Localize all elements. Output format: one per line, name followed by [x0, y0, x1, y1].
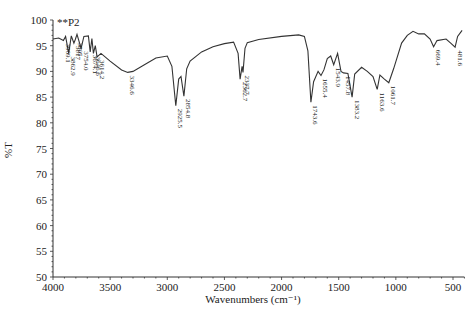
peak-label: 2854.8: [184, 99, 192, 119]
peak-label: 481.6: [456, 50, 464, 66]
x-tick-label: 3000: [156, 281, 179, 293]
peak-label: 3346.6: [128, 75, 136, 95]
peak-label: 2925.5: [176, 109, 184, 129]
y-tick-label: 90: [36, 65, 48, 77]
peak-label: 1163.6: [378, 92, 386, 111]
peak-label: 1383.2: [353, 100, 361, 120]
y-tick-label: 80: [36, 117, 48, 129]
x-axis-label: Wavenumbers (cm⁻¹): [205, 293, 301, 306]
y-tick-label: 70: [36, 168, 48, 180]
y-tick-label: 95: [36, 40, 48, 52]
peak-label: 3614.2: [98, 60, 106, 80]
peak-label: 2337.7: [243, 75, 251, 95]
spectrum-line: [53, 30, 462, 106]
chart-title: **P2: [57, 16, 80, 28]
x-tick-label: 1500: [328, 281, 351, 293]
peak-label: 3754.0: [82, 51, 90, 71]
peak-label: 669.4: [434, 50, 442, 66]
y-tick-label: 85: [36, 91, 48, 103]
x-tick-label: 1000: [385, 281, 408, 293]
peak-label: 1655.4: [321, 79, 329, 99]
peak-label: 1543.9: [334, 68, 342, 88]
x-tick-label: 4000: [42, 281, 65, 293]
peak-label: 1743.6: [311, 105, 319, 125]
y-tick-label: 100: [31, 14, 48, 26]
peak-annotations: 3909.13862.9381738053754.03674.13646.636…: [64, 43, 464, 129]
chart-svg: 5055606570758085909510040003500300025002…: [0, 0, 469, 322]
peak-label: 1457.8: [344, 76, 352, 96]
y-tick-label: 55: [36, 245, 48, 257]
peak-label: 1061.7: [389, 86, 397, 106]
x-tick-label: 2500: [213, 281, 236, 293]
x-tick-label: 3500: [99, 281, 122, 293]
y-tick-label: 60: [36, 220, 48, 232]
x-tick-label: 500: [445, 281, 462, 293]
y-axis-label: %T: [2, 142, 14, 158]
y-tick-label: 75: [36, 143, 48, 155]
y-tick-label: 65: [36, 194, 48, 206]
ir-spectrum-chart: 5055606570758085909510040003500300025002…: [0, 0, 469, 322]
x-tick-label: 2000: [271, 281, 294, 293]
axes: [53, 20, 464, 277]
